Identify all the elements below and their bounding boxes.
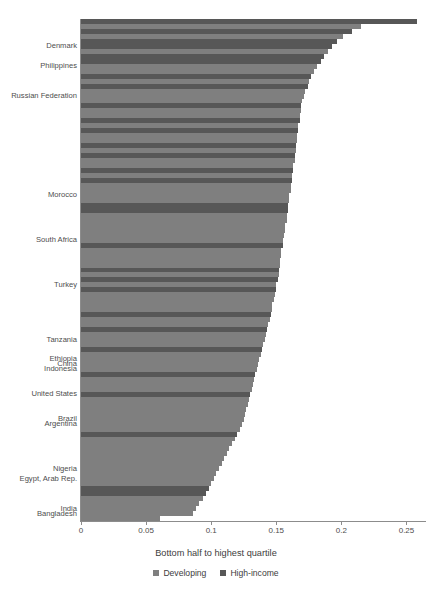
- legend-item-high-income: High-income: [220, 568, 278, 578]
- y-axis-label: Indonesia: [44, 365, 77, 373]
- x-axis-tick: [341, 521, 342, 525]
- legend-swatch-developing-icon: [153, 570, 159, 576]
- x-axis-tick: [146, 521, 147, 525]
- x-axis-tick-label: 0.2: [336, 526, 347, 535]
- chart-legend: Developing High-income: [0, 568, 432, 578]
- y-axis-labels: DenmarkPhilippinesRussian FederationMoro…: [0, 19, 77, 521]
- x-axis-tick: [276, 521, 277, 525]
- legend-label-developing: Developing: [163, 568, 206, 578]
- x-axis-tick-label: 0.1: [206, 526, 217, 535]
- y-axis-label: Denmark: [46, 42, 77, 50]
- bar-chart: DenmarkPhilippinesRussian FederationMoro…: [0, 0, 432, 596]
- x-axis-tick: [406, 521, 407, 525]
- x-axis-tick: [81, 521, 82, 525]
- y-axis-label: United States: [31, 390, 77, 398]
- x-axis-tick: [211, 521, 212, 525]
- y-axis-label: South Africa: [36, 236, 77, 244]
- x-axis-tick-label: 0: [79, 526, 83, 535]
- x-axis-title: Bottom half to highest quartile: [0, 548, 432, 558]
- x-axis-ticks: 00.050.10.150.20.25: [0, 521, 432, 541]
- legend-swatch-high-income-icon: [220, 570, 226, 576]
- y-axis-label: Philippines: [40, 62, 77, 70]
- y-axis-label: Turkey: [54, 281, 77, 289]
- y-axis-label: Argentina: [44, 420, 77, 428]
- x-axis-tick-label: 0.15: [268, 526, 284, 535]
- plot-area: [81, 19, 426, 521]
- x-axis-tick-label: 0.05: [138, 526, 154, 535]
- y-axis-label: Tanzania: [47, 336, 77, 344]
- y-axis-label: Bangladesh: [37, 510, 77, 518]
- legend-label-high-income: High-income: [230, 568, 278, 578]
- x-axis-tick-label: 0.25: [399, 526, 415, 535]
- y-axis-label: Morocco: [48, 191, 77, 199]
- y-axis-label: Russian Federation: [11, 92, 77, 100]
- y-axis-label: Egypt, Arab Rep.: [20, 475, 77, 483]
- legend-item-developing: Developing: [153, 568, 206, 578]
- y-axis-label: Nigeria: [53, 465, 77, 473]
